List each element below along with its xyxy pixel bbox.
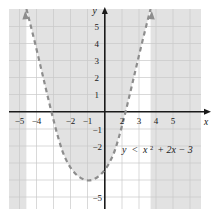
x-tick-label: −1: [83, 116, 93, 126]
x-tick-label: 2: [120, 116, 125, 126]
y-tick-label: 2: [95, 73, 100, 83]
inequality-rhs-rest: + 2x − 3: [157, 144, 192, 155]
y-tick-label: 3: [95, 56, 100, 66]
inequality-rhs-base: x: [142, 144, 148, 155]
y-axis-label: y: [92, 6, 98, 16]
inequality-relation: <: [132, 144, 138, 155]
x-tick-label: −2: [66, 116, 76, 126]
y-tick-label: −5: [92, 193, 102, 203]
inequality-rhs-exponent: 2: [150, 144, 153, 151]
inequality-lhs: y: [121, 144, 127, 155]
graph-figure: x y −5 −4 −2 −1 2 3 4 5 5 4 3 2 1 −1 −2 …: [0, 0, 219, 218]
y-tick-label: −1: [92, 125, 102, 135]
x-tick-label: −5: [15, 116, 25, 126]
x-tick-label: 4: [154, 116, 159, 126]
x-tick-label: −4: [32, 116, 42, 126]
x-tick-label: 5: [171, 116, 176, 126]
x-axis-arrow-icon: [204, 109, 211, 115]
y-tick-label: 1: [95, 90, 100, 100]
y-tick-label: 4: [95, 39, 100, 49]
y-tick-label: 5: [95, 22, 100, 32]
coordinate-plane-svg: x y −5 −4 −2 −1 2 3 4 5 5 4 3 2 1 −1 −2 …: [0, 0, 219, 218]
x-axis-label: x: [203, 117, 209, 127]
x-tick-label: 3: [137, 116, 142, 126]
y-tick-label: −2: [92, 142, 102, 152]
